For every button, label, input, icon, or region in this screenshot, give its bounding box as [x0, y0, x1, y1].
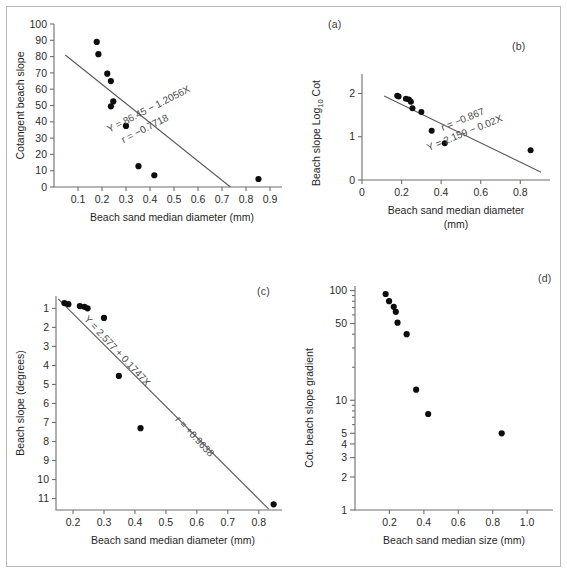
y-tick-label: 3	[341, 451, 347, 463]
y-axis-title: Cot. beach slope gradient	[303, 348, 315, 468]
x-tick-label: 0.2	[394, 186, 409, 198]
data-point	[94, 39, 100, 45]
y-tick-label: 4	[341, 438, 347, 450]
y-tick-label: 90	[35, 34, 47, 46]
panel-a: (a) 01020304050607080901000.10.20.30.40.…	[10, 10, 285, 235]
x-tick-label: 0.4	[417, 516, 432, 528]
y-tick-label: 7	[43, 416, 49, 428]
y-tick-label: 10	[35, 164, 47, 176]
y-tick-label: 80	[35, 50, 47, 62]
y-tick-label: 60	[35, 83, 47, 95]
y-tick-label: 30	[35, 132, 47, 144]
panel-b: (b) 01200.20.40.60.8r = −0.867Y = 2.159 …	[300, 48, 558, 238]
y-tick-label: 20	[35, 148, 47, 160]
data-point	[271, 501, 277, 507]
y-tick-label: 8	[43, 435, 49, 447]
data-point	[65, 301, 71, 307]
y-tick-label: 10	[335, 394, 347, 406]
x-tick-label: 0.5	[167, 193, 182, 205]
x-tick-label: 0.4	[434, 186, 449, 198]
y-tick-label: 100	[29, 18, 47, 30]
y-tick-label: 5	[43, 378, 49, 390]
data-point	[393, 309, 399, 315]
y-tick-label: 1	[349, 130, 355, 142]
data-point	[151, 172, 157, 178]
data-point	[404, 331, 410, 337]
y-tick-label: 100	[329, 284, 347, 296]
y-tick-label: 2	[43, 321, 49, 333]
x-tick-label: 0.4	[128, 516, 143, 528]
x-tick-label: 0.6	[473, 186, 488, 198]
x-axis-title: Beach sand median diameter (mm)	[91, 534, 255, 546]
panel-c-chart: 12345678910110.20.30.40.50.60.70.8Y = 2.…	[10, 282, 285, 557]
y-tick-label: 0	[41, 181, 47, 193]
panel-c: (c) 12345678910110.20.30.40.50.60.70.8Y …	[10, 282, 285, 557]
x-tick-label: 0.2	[66, 516, 81, 528]
regression-annotation: r = +0.9638	[173, 414, 216, 459]
x-tick-label: 0.1	[71, 193, 86, 205]
y-tick-label: 2	[349, 87, 355, 99]
x-tick-label: 0.5	[159, 516, 174, 528]
x-axis-units: (mm)	[444, 218, 469, 230]
data-point	[110, 98, 116, 104]
data-point	[528, 147, 534, 153]
x-tick-label: 0.7	[221, 516, 236, 528]
x-axis-title: Beach sand median size (mm)	[383, 534, 525, 546]
data-point	[255, 176, 261, 182]
data-point	[396, 93, 402, 99]
data-point	[425, 411, 431, 417]
y-tick-label: 1	[43, 302, 49, 314]
x-tick-label: 0.8	[485, 516, 500, 528]
x-tick-label: 0.8	[251, 516, 266, 528]
x-tick-label: 0.8	[513, 186, 528, 198]
y-tick-label: 6	[43, 397, 49, 409]
y-tick-label: 10	[37, 473, 49, 485]
x-tick-label: 0.7	[215, 193, 230, 205]
x-tick-label: 0.2	[382, 516, 397, 528]
data-point	[429, 128, 435, 134]
data-point	[95, 51, 101, 57]
data-point	[135, 163, 141, 169]
x-tick-label: 0.2	[95, 193, 110, 205]
data-point	[386, 298, 392, 304]
x-tick-label: 0.6	[451, 516, 466, 528]
data-point	[104, 71, 110, 77]
x-tick-label: 0.6	[190, 516, 205, 528]
panel-b-chart: 01200.20.40.60.8r = −0.867Y = 2.159 − 0.…	[300, 48, 558, 238]
y-tick-label: 4	[43, 359, 49, 371]
x-tick-label: 0.3	[119, 193, 134, 205]
y-tick-label: 70	[35, 67, 47, 79]
x-tick-label: 0	[359, 186, 365, 198]
panel-c-label: (c)	[257, 285, 270, 297]
y-tick-label: 9	[43, 454, 49, 466]
x-axis-title: Beach sand median diameter (mm)	[90, 211, 254, 223]
y-tick-label: 50	[335, 317, 347, 329]
data-point	[409, 105, 415, 111]
y-tick-label: 3	[43, 340, 49, 352]
x-tick-label: 0.8	[239, 193, 254, 205]
y-axis-title: Beach slope (degrees)	[14, 350, 26, 456]
panel-a-chart: 01020304050607080901000.10.20.30.40.50.6…	[10, 10, 285, 235]
x-tick-label: 0.6	[191, 193, 206, 205]
x-axis-title: Beach sand median diameter	[388, 204, 525, 216]
x-tick-label: 0.3	[97, 516, 112, 528]
panel-d-label: (d)	[538, 272, 551, 284]
x-tick-label: 0.9	[263, 193, 278, 205]
data-point	[84, 305, 90, 311]
data-point	[101, 315, 107, 321]
x-tick-label: 0.4	[143, 193, 158, 205]
panel-b-label: (b)	[512, 40, 525, 52]
panel-a-label: (a)	[328, 18, 341, 30]
data-point	[408, 99, 414, 105]
data-point	[499, 430, 505, 436]
y-tick-label: 2	[341, 471, 347, 483]
y-axis-title: Beach slope Log10 Cot	[310, 80, 325, 186]
y-tick-label: 50	[35, 99, 47, 111]
y-tick-label: 40	[35, 115, 47, 127]
y-tick-label: 0	[349, 174, 355, 186]
panel-d-chart: 1234510501000.20.40.60.81.0Beach sand me…	[295, 268, 561, 558]
y-axis-title: Cotangent beach slope	[14, 51, 26, 159]
data-point	[394, 320, 400, 326]
y-tick-label: 1	[341, 504, 347, 516]
data-point	[137, 425, 143, 431]
